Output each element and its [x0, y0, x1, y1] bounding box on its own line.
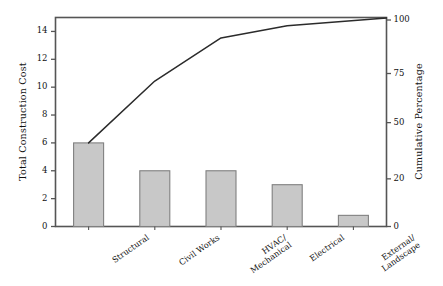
bar: [338, 215, 368, 226]
bar-series: [74, 143, 369, 227]
y-tick-label-right: 100: [394, 14, 420, 24]
y-tick-label-left: 8: [22, 109, 48, 119]
y-tick-label-left: 2: [22, 193, 48, 203]
y-tick-label-right: 50: [394, 117, 420, 127]
y-tick-label-left: 12: [22, 53, 48, 63]
y-tick-label-right: 75: [394, 68, 420, 78]
bar: [272, 185, 302, 227]
pareto-chart: Total Construction Cost Cumulative Perce…: [0, 0, 443, 286]
y-tick-label-right: 0: [394, 221, 420, 231]
y-tick-label-left: 4: [22, 165, 48, 175]
cumulative-line-series: [89, 18, 387, 143]
y-tick-label-left: 14: [22, 25, 48, 35]
bar: [74, 143, 104, 227]
plot-area: [0, 0, 443, 286]
y-tick-label-right: 20: [394, 173, 420, 183]
y-tick-label-left: 0: [22, 221, 48, 231]
bar: [206, 171, 236, 227]
y-tick-label-left: 10: [22, 81, 48, 91]
y-tick-label-left: 6: [22, 137, 48, 147]
bar: [140, 171, 170, 227]
